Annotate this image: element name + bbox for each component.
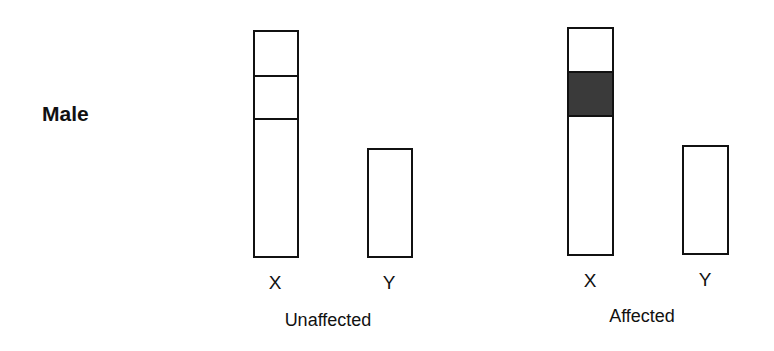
mutated-band	[569, 71, 612, 117]
band-divider	[255, 118, 297, 120]
row-label-male: Male	[42, 102, 89, 126]
unaffected-x-chromosome	[253, 30, 299, 258]
unaffected-x-label: X	[255, 272, 295, 294]
band-divider	[255, 75, 297, 77]
affected-group-label: Affected	[562, 306, 722, 327]
unaffected-y-label: Y	[369, 272, 409, 294]
affected-x-chromosome	[567, 27, 614, 256]
unaffected-y-chromosome	[367, 148, 413, 258]
affected-y-label: Y	[685, 269, 725, 291]
unaffected-group-label: Unaffected	[248, 310, 408, 331]
affected-x-label: X	[570, 270, 610, 292]
affected-y-chromosome	[682, 145, 729, 255]
